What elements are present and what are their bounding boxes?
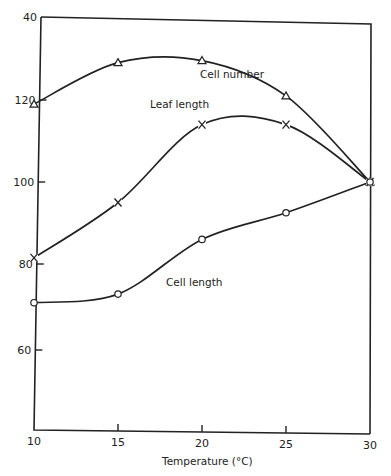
x-tick-label: 15 <box>111 436 125 449</box>
x-tick-label: 25 <box>279 438 293 451</box>
circle-marker-icon <box>31 300 37 306</box>
x-tick-label: 10 <box>27 435 41 448</box>
y-tick-label: 100 <box>13 176 34 189</box>
x-tick-label: 30 <box>363 439 377 452</box>
series-curves <box>34 57 370 303</box>
label-cell-length: Cell length <box>166 276 222 288</box>
x-tick-label: 20 <box>195 437 209 450</box>
x-axis-title: Temperature (°C) <box>161 455 253 467</box>
axes: 4012010080601015202530 <box>13 11 377 452</box>
circle-marker-icon <box>283 210 289 216</box>
line-chart: 4012010080601015202530 Cell number Leaf … <box>0 0 391 476</box>
series-markers <box>30 57 374 306</box>
x-marker-icon <box>114 199 122 207</box>
y-tick-label: 40 <box>23 11 37 24</box>
x-marker-icon <box>198 121 206 129</box>
x-marker-icon <box>282 121 290 129</box>
label-leaf-length: Leaf length <box>150 98 209 110</box>
chart-canvas: 4012010080601015202530 Cell number Leaf … <box>0 0 391 476</box>
circle-marker-icon <box>115 291 121 297</box>
circle-marker-icon <box>367 179 373 185</box>
y-tick-label: 60 <box>17 344 31 357</box>
x-marker-icon <box>30 254 38 262</box>
circle-marker-icon <box>199 236 205 242</box>
label-cell-number: Cell number <box>200 68 265 80</box>
